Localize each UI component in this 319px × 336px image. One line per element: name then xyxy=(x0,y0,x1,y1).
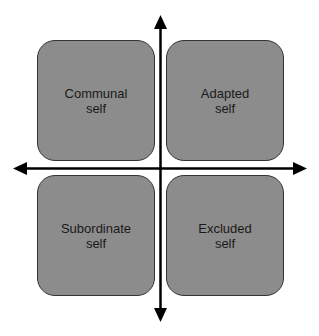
arrow-down-icon xyxy=(154,308,167,322)
arrow-up-icon xyxy=(154,15,167,29)
arrow-right-icon xyxy=(293,162,307,175)
axes xyxy=(0,0,319,336)
arrow-left-icon xyxy=(13,162,27,175)
